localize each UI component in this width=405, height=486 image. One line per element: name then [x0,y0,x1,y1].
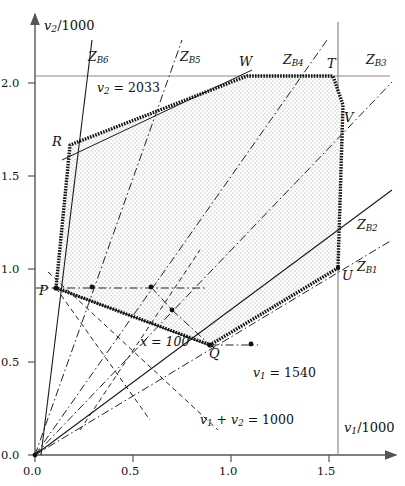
zb2-sub: B2 [366,223,378,233]
zb1-sub: B1 [366,265,378,275]
y-tick-label-1: 0.5 [1,355,19,369]
sum-rest: = 1000 [244,412,294,427]
zone-label-zb6: ZB6 [88,49,109,65]
interior-dot-2 [149,285,154,290]
zb2-main: Z [357,217,366,232]
zb4-main: Z [283,52,292,67]
sum-var1: v [200,412,207,427]
y-tick-label-4: 2.0 [1,76,19,90]
y-tick-label-2: 1.0 [1,262,19,276]
zone-label-zb2: ZB2 [357,217,378,233]
vertex-label-U: U [342,268,353,283]
x-tick-label-0: 0.0 [23,464,41,478]
origin-dot [33,453,38,458]
v1-bound-var: v [253,365,260,380]
zb1-main: Z [357,259,366,274]
x-tick-marks [35,455,329,462]
zb6-main: Z [88,49,97,64]
y-tick-marks [28,83,35,455]
x-axis-label: v1/1000 [344,420,395,436]
vertex-label-R: R [52,134,62,149]
v2-bound-rest: = 2033 [110,80,160,95]
y-axis-label-tail: /1000 [57,18,94,33]
y-axis-label: v2/1000 [44,18,95,34]
interior-dot-3 [170,308,175,313]
zone-label-zb4: ZB4 [283,52,304,68]
zb5-sub: B5 [189,55,201,65]
annotation-sum-bound: v1 + v2 = 1000 [200,412,294,428]
x-axis-label-tail: /1000 [357,420,394,435]
y-tick-label-3: 1.5 [1,169,19,183]
vertex-label-P: P [39,283,48,298]
figure-canvas: v2/1000 v1/1000 0.0 0.5 1.0 1.5 2.0 0.0 … [0,0,405,486]
sum-plus: + [213,412,231,427]
annotation-x-bound: x = 100 [140,334,189,349]
x-tick-label-2: 1.0 [219,464,237,478]
zb3-main: Z [366,52,375,67]
x-tick-label-3: 1.5 [317,464,335,478]
zb3-sub: B3 [375,58,387,68]
annotation-v2-bound: v2 = 2033 [97,80,160,96]
annotation-v1-bound: v1 = 1540 [253,365,316,381]
vertex-dot-U [336,266,340,270]
interior-dot-1 [90,285,95,290]
x-tick-label-1: 0.5 [121,464,139,478]
vertex-dot-P [53,285,58,290]
zb4-sub: B4 [292,58,304,68]
zone-label-zb3: ZB3 [366,52,387,68]
zone-label-zb1: ZB1 [357,259,378,275]
zb5-main: Z [180,49,189,64]
v1-bound-rest: = 1540 [266,365,316,380]
zone-label-zb5: ZB5 [180,49,201,65]
zb6-sub: B6 [97,55,109,65]
vertex-label-W: W [239,54,252,69]
y-tick-label-0: 0.0 [1,448,19,462]
vertex-label-V: V [344,110,353,125]
interior-dot-4 [249,342,254,347]
vertex-label-T: T [327,56,336,71]
vertex-label-Q: Q [209,346,220,361]
v2-bound-var: v [97,80,104,95]
